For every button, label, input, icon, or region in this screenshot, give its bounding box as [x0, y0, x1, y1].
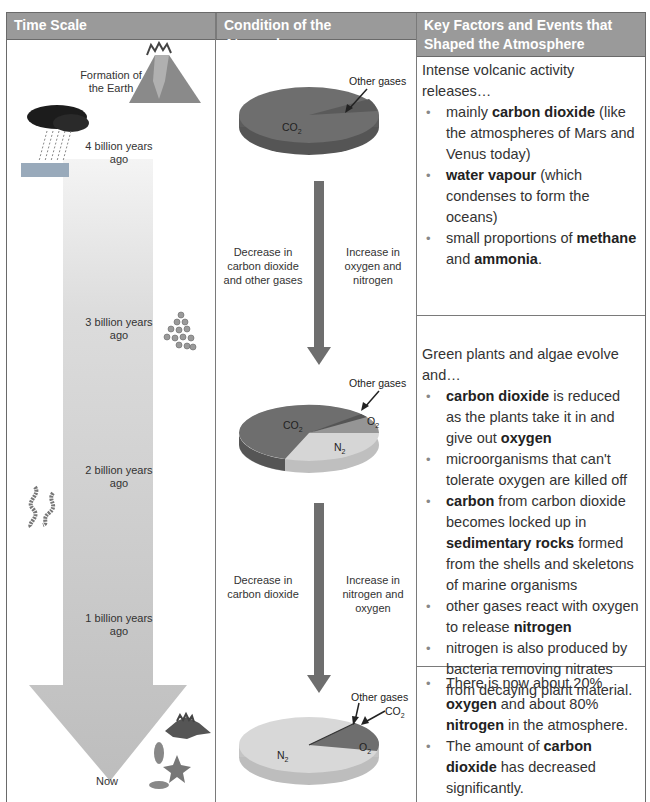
label-2-billion: 2 billion years ago — [83, 464, 155, 490]
pointer-arrow-icon — [357, 389, 387, 413]
list-item: mainly carbon dioxide (like the atmosphe… — [422, 102, 639, 165]
header-condition: Condition of the Atmosphere — [216, 13, 416, 39]
list-item: water vapour (which condenses to form th… — [422, 165, 639, 228]
key-factors-cell-now: There is now about 20% oxygen and about … — [416, 667, 645, 802]
list-item: There is now about 20% oxygen and about … — [422, 673, 639, 736]
cell1-intro: Intense volcanic activity releases… — [422, 60, 639, 102]
column-divider — [215, 13, 216, 802]
down-arrow-icon — [307, 503, 331, 693]
down-arrow-icon — [307, 181, 331, 365]
header-time-scale: Time Scale — [7, 13, 215, 39]
pie2-o2-label: O2 — [367, 415, 379, 429]
starfish-icon — [163, 755, 191, 783]
pointer-arrow-icon — [337, 87, 377, 117]
list-item: small proportions of methane and ammonia… — [422, 228, 639, 270]
key-factors-cell-volcanic: Intense volcanic activity releases… main… — [416, 58, 645, 316]
label-1-billion: 1 billion years ago — [83, 612, 155, 638]
header-key-factors: Key Factors and Events that Shaped the A… — [416, 13, 645, 57]
list-item: microorganisms that can't tolerate oxyge… — [422, 449, 639, 491]
atmosphere-evolution-table: Time Scale Condition of the Atmosphere K… — [6, 12, 646, 802]
dinosaur-icon — [165, 714, 211, 739]
pie1-other-label: Other gases — [349, 75, 406, 87]
flow1-decrease-text: Decrease in carbon dioxide and other gas… — [221, 245, 305, 287]
label-now: Now — [87, 775, 127, 788]
worm-organism-icon — [19, 483, 63, 529]
pie2-n2-label: N2 — [334, 441, 346, 455]
fern-icon — [154, 742, 164, 764]
list-item: The amount of carbon dioxide has decreas… — [422, 736, 639, 799]
flow2-decrease-text: Decrease in carbon dioxide — [221, 573, 305, 601]
label-formation: Formation of the Earth — [75, 69, 147, 95]
pie3-o2-label: O2 — [359, 741, 371, 755]
cell2-intro: Green plants and algae evolve and… — [422, 344, 639, 386]
list-item: carbon dioxide is reduced as the plants … — [422, 386, 639, 449]
pie1-co2-label: CO2 — [282, 121, 302, 135]
trilobite-icon — [149, 781, 169, 789]
pie3-n2-label: N2 — [277, 749, 289, 763]
pie2-co2-label: CO2 — [283, 419, 303, 433]
flow2-increase-text: Increase in nitrogen and oxygen — [335, 573, 411, 615]
prehistoric-life-icons — [147, 709, 213, 799]
bacteria-cluster-icon — [159, 309, 199, 359]
pie2-other-label: Other gases — [349, 377, 406, 389]
label-3-billion: 3 billion years ago — [83, 316, 155, 342]
flow1-increase-text: Increase in oxygen and nitrogen — [335, 245, 411, 287]
pointer-arrows-icon — [347, 701, 391, 731]
list-item: other gases react with oxygen to release… — [422, 596, 639, 638]
list-item: carbon from carbon dioxide becomes locke… — [422, 491, 639, 596]
label-4-billion: 4 billion years ago — [83, 140, 155, 166]
key-factors-cell-plants: Green plants and algae evolve and… carbo… — [416, 340, 645, 667]
